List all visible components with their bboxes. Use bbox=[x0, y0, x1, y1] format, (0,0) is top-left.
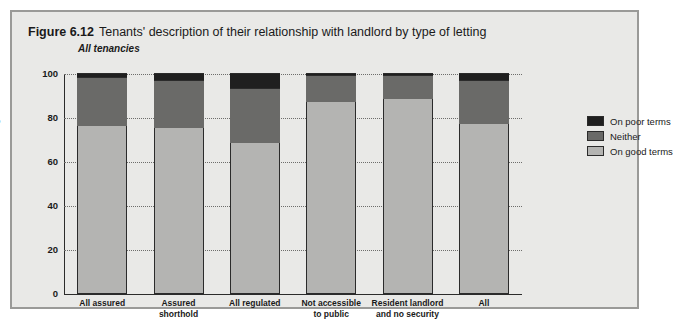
gridline bbox=[64, 250, 522, 251]
bar-segment-on-poor-terms[interactable] bbox=[383, 73, 433, 75]
bar-segment-neither[interactable] bbox=[459, 80, 509, 124]
bar-stack[interactable] bbox=[306, 74, 356, 294]
gridline bbox=[64, 162, 522, 163]
figure-subtitle: All tenancies bbox=[78, 43, 628, 54]
legend-label: Neither bbox=[610, 131, 641, 142]
x-axis-tick-label: Not accessibleto public bbox=[293, 298, 369, 319]
x-axis-tick-label: All regulated bbox=[217, 298, 293, 309]
legend-swatch-on-good-terms bbox=[587, 146, 604, 156]
bar-segment-neither[interactable] bbox=[306, 75, 356, 101]
figure-number: Figure 6.12 bbox=[28, 25, 94, 39]
bar-stack[interactable] bbox=[383, 74, 433, 294]
y-axis-tick-label: 0 bbox=[28, 288, 58, 299]
bar-segment-neither[interactable] bbox=[230, 88, 280, 143]
gridline bbox=[64, 118, 522, 119]
x-axis-tick-label: Resident landlordand no security bbox=[369, 298, 445, 319]
x-axis-tick-label: All bbox=[446, 298, 522, 309]
figure-title-block: Figure 6.12Tenants' description of their… bbox=[28, 22, 628, 54]
bar-segment-on-poor-terms[interactable] bbox=[154, 73, 204, 80]
bar-segment-on-poor-terms[interactable] bbox=[459, 73, 509, 80]
y-axis-tick-label: 40 bbox=[28, 200, 58, 211]
bar-stack[interactable] bbox=[154, 74, 204, 294]
chart-legend: On poor termsNeitherOn good terms bbox=[587, 115, 673, 160]
x-axis-tick-label: Assuredshorthold bbox=[140, 298, 216, 319]
legend-label: On poor terms bbox=[610, 116, 671, 127]
bar-segment-on-poor-terms[interactable] bbox=[77, 73, 127, 77]
bar-segment-on-poor-terms[interactable] bbox=[230, 73, 280, 88]
legend-swatch-on-poor-terms bbox=[587, 116, 604, 126]
page-title: Tenants' description of their relationsh… bbox=[99, 25, 486, 39]
bar-stack[interactable] bbox=[459, 74, 509, 294]
gridline bbox=[64, 74, 522, 75]
bar-stack[interactable] bbox=[77, 74, 127, 294]
legend-item[interactable]: Neither bbox=[587, 130, 673, 142]
legend-item[interactable]: On good terms bbox=[587, 145, 673, 157]
gridline bbox=[64, 206, 522, 207]
bar-segment-neither[interactable] bbox=[383, 75, 433, 99]
bar-segment-neither[interactable] bbox=[154, 80, 204, 128]
y-axis-tick-label: 80 bbox=[28, 112, 58, 123]
x-axis-line bbox=[64, 294, 522, 295]
legend-swatch-neither bbox=[587, 131, 604, 141]
plot-area bbox=[64, 74, 522, 294]
y-axis-tick-label: 20 bbox=[28, 244, 58, 255]
bar-segment-neither[interactable] bbox=[77, 77, 127, 125]
legend-item[interactable]: On poor terms bbox=[587, 115, 673, 127]
bar-stack[interactable] bbox=[230, 74, 280, 294]
bar-segment-on-poor-terms[interactable] bbox=[306, 73, 356, 75]
legend-label: On good terms bbox=[610, 146, 673, 157]
y-axis-tick-label: 60 bbox=[28, 156, 58, 167]
y-axis-tick-label: 100 bbox=[28, 68, 58, 79]
x-axis-tick-label: All assured bbox=[64, 298, 140, 309]
figure-panel: Figure 6.12Tenants' description of their… bbox=[10, 10, 639, 309]
